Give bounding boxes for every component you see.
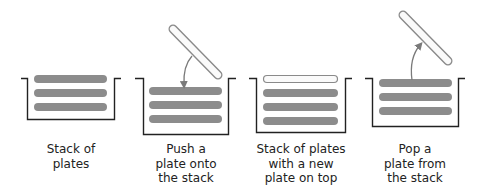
caption-line: the stack — [355, 171, 475, 186]
plate — [263, 103, 338, 111]
plate — [149, 115, 222, 123]
panel-after-push — [249, 76, 352, 133]
plate — [149, 87, 222, 95]
panel-push — [135, 29, 236, 135]
caption-line: with a new — [241, 157, 361, 172]
panel-stack — [21, 75, 121, 120]
plate — [263, 117, 338, 125]
new-plate — [264, 76, 338, 83]
caption-stack: Stack of plates — [11, 142, 131, 171]
caption-pop: Pop a plate from the stack — [355, 142, 475, 186]
caption-line: plate onto — [126, 157, 246, 172]
caption-line: plate on top — [241, 171, 361, 186]
plate — [34, 75, 107, 83]
caption-after-push: Stack of plates with a new plate on top — [241, 142, 361, 186]
plate — [263, 89, 338, 97]
caption-line: Stack of plates — [241, 142, 361, 157]
plate — [379, 93, 452, 101]
panel-pop — [365, 15, 465, 127]
caption-line: Pop a — [355, 142, 475, 157]
caption-line: plates — [11, 157, 131, 172]
plate — [34, 103, 107, 111]
pop-arrow-icon — [411, 45, 420, 80]
plate — [34, 89, 107, 97]
caption-line: Push a — [126, 142, 246, 157]
container — [21, 79, 121, 120]
caption-line: the stack — [126, 171, 246, 186]
plate — [149, 101, 222, 109]
caption-line: plate from — [355, 157, 475, 172]
caption-line: Stack of — [11, 142, 131, 157]
push-arrow-icon — [184, 56, 192, 85]
plate — [379, 107, 452, 115]
caption-push: Push a plate onto the stack — [126, 142, 246, 186]
plate — [379, 79, 452, 87]
